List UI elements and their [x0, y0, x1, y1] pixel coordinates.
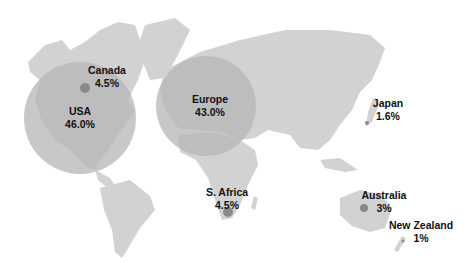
bubble-japan [365, 121, 369, 125]
label-s-africa: S. Africa 4.5% [206, 186, 248, 212]
label-australia: Australia 3% [362, 189, 407, 215]
world-bubble-map: Canada 4.5% USA 46.0% Europe 43.0% Japan… [0, 0, 476, 263]
label-usa: USA 46.0% [65, 105, 95, 131]
label-japan: Japan 1.6% [373, 97, 403, 123]
label-europe: Europe 43.0% [192, 93, 228, 119]
label-new-zealand: New Zealand 1% [389, 219, 453, 245]
label-canada: Canada 4.5% [88, 64, 126, 90]
